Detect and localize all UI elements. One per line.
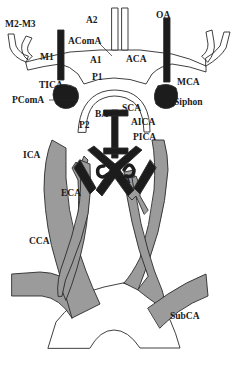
artery-diagram xyxy=(0,0,240,375)
label-m2-m3: M2-M3 xyxy=(5,20,36,30)
label-ica: ICA xyxy=(23,151,40,161)
aica-branch xyxy=(104,148,128,154)
label-oa: OA xyxy=(156,11,170,21)
right-ophthalmic-artery xyxy=(164,18,170,82)
m2-m3-left-branches xyxy=(8,34,32,62)
aca-a2 xyxy=(112,8,118,50)
label-mca: MCA xyxy=(177,78,200,88)
label-acoma: AComA xyxy=(68,37,101,47)
label-p2: P2 xyxy=(79,121,90,131)
label-tica: TICA xyxy=(39,81,63,91)
label-aca: ACA xyxy=(126,55,147,65)
label-a2: A2 xyxy=(86,16,98,26)
label-a1: A1 xyxy=(90,56,102,66)
label-sca: SCA xyxy=(122,104,141,114)
m2-m3-right-branches xyxy=(202,30,230,66)
label-siphon: Siphon xyxy=(174,98,203,108)
label-ba: BA xyxy=(95,110,108,120)
aca-a2-right xyxy=(122,8,128,50)
label-eca: ECA xyxy=(61,189,81,199)
label-pcoma: PComA xyxy=(12,96,44,106)
right-va-black xyxy=(134,160,156,194)
label-m1: M1 xyxy=(40,53,54,63)
label-cca: CCA xyxy=(29,237,50,247)
label-subca: SubCA xyxy=(170,312,200,322)
left-ophthalmic-stem xyxy=(58,30,64,80)
label-pica: PICA xyxy=(133,133,156,143)
label-va: VA xyxy=(118,176,131,186)
label-aica: AICA xyxy=(131,118,155,128)
label-p1: P1 xyxy=(92,73,103,83)
pica-loop-left xyxy=(98,166,108,177)
